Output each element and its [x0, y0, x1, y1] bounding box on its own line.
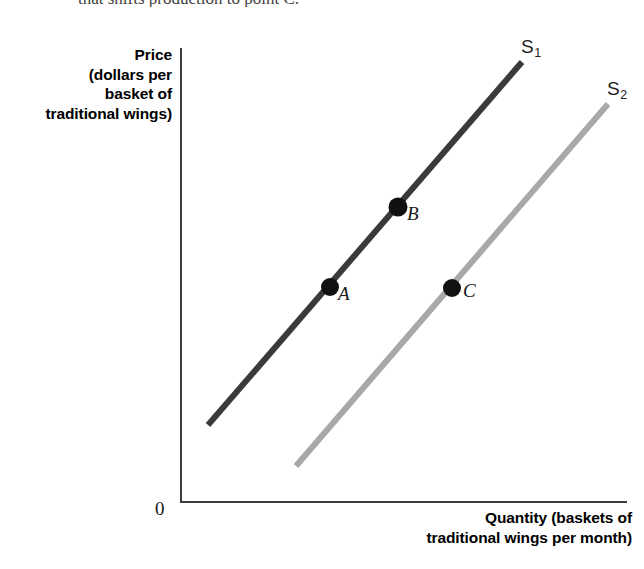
supply-curve-figure: that shifts production to point C. Price…: [0, 0, 644, 569]
curve-label-s2-subscript: 2: [620, 88, 627, 102]
point-label-b: B: [407, 203, 419, 225]
plot-area: [0, 0, 644, 569]
curve-label-s2: S2: [607, 78, 627, 100]
curve-label-s1: S1: [521, 36, 541, 58]
point-marker-a: [321, 278, 339, 296]
supply-curve-s1: [208, 62, 522, 425]
curve-label-s1-text: S: [521, 36, 534, 57]
curve-label-s1-subscript: 1: [534, 46, 541, 60]
point-label-c: C: [463, 280, 476, 302]
point-marker-c: [443, 279, 461, 297]
curve-label-s2-text: S: [607, 78, 620, 99]
point-label-a: A: [338, 283, 350, 305]
point-marker-b: [389, 198, 408, 217]
